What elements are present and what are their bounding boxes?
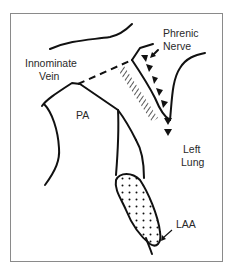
right-descending-line	[136, 140, 144, 178]
label-left-lung-line1: Left	[183, 143, 201, 155]
label-laa: LAA	[176, 218, 196, 230]
phrenic-nerve-arrows	[141, 55, 172, 136]
label-phrenic-line1: Phrenic	[163, 27, 199, 39]
pa-left-curve	[44, 104, 59, 185]
phrenic-top-outline	[132, 44, 153, 60]
upper-border-curve	[50, 24, 132, 49]
laa-pointer-line	[163, 230, 172, 238]
laa-shape	[116, 174, 161, 246]
anatomy-diagram: Innominate Vein Phrenic Nerve PA Left Lu…	[0, 0, 229, 274]
label-left-lung-line2: Lung	[181, 156, 205, 168]
label-pa: PA	[76, 109, 89, 121]
label-phrenic-line2: Nerve	[163, 40, 191, 52]
pa-inner-line	[116, 110, 118, 175]
label-innominate-line1: Innominate	[25, 57, 77, 69]
left-lung-border	[170, 53, 205, 120]
label-innominate-line2: Vein	[39, 70, 60, 82]
